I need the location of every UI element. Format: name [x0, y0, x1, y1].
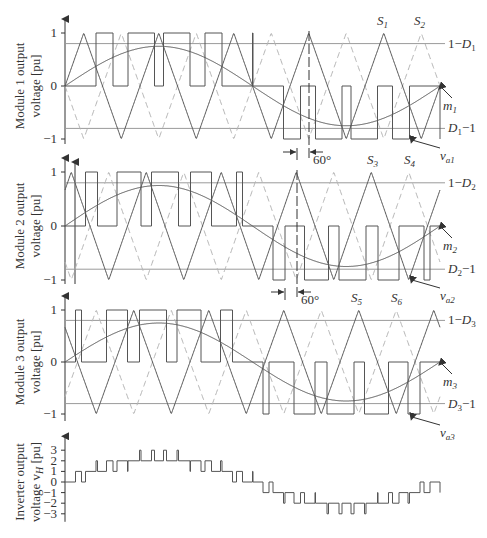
y-tick-label: −1 [43, 131, 57, 146]
lower-reference-label: D3−1 [447, 396, 476, 413]
module-output-voltage [65, 172, 440, 280]
pwm-waveform-figure: 10−11−D1D1−1m1va1S1S260° 10−11−D2D2−1m2v… [0, 0, 487, 538]
y-tick-label: 1 [51, 25, 58, 40]
phase-shift-label: 60° [301, 292, 319, 307]
carrier-label: S3 [367, 152, 379, 169]
modulation-pointer-arrow [441, 227, 452, 238]
svg-text:Inverter output: Inverter output [12, 443, 27, 521]
svg-text:voltage [pu]: voltage [pu] [28, 194, 43, 257]
output-voltage-label: va3 [440, 425, 455, 442]
y-tick-label: −3 [43, 506, 57, 521]
output-pointer-arrow [412, 280, 440, 288]
lower-reference-label: D2−1 [447, 261, 476, 278]
output-pointer-arrow [412, 140, 440, 148]
output-voltage-label: va2 [440, 288, 455, 305]
inverter-output-panel: 3210−1−2−3 [43, 436, 440, 522]
module-output-voltage [65, 310, 440, 414]
phase-arrow-right-icon [290, 149, 296, 155]
carrier-label: S4 [404, 152, 416, 169]
module-2-panel: 10−11−D2D2−1m2va2S3S460° [43, 152, 476, 307]
svg-text:voltage [pu]: voltage [pu] [28, 54, 43, 117]
carrier-label: S1 [377, 13, 388, 30]
module-output-voltage [65, 33, 440, 139]
inverter-output-voltage [65, 450, 440, 514]
upper-reference-label: 1−D3 [448, 312, 476, 329]
svg-text:Module 1 output: Module 1 output [12, 42, 27, 129]
module-1-panel: 10−11−D1D1−1m1va1S1S260° [43, 13, 476, 167]
module-3-panel: 10−11−D3D3−1m3va3S5S6 [43, 290, 476, 442]
carrier-label: S6 [391, 290, 403, 307]
y-tick-label: 0 [51, 218, 58, 233]
svg-text:voltage vH [pu]: voltage vH [pu] [28, 442, 45, 522]
module-1-ylabel: Module 1 output voltage [pu] [12, 42, 43, 129]
y-tick-label: 0 [51, 354, 58, 369]
module-2-ylabel: Module 2 output voltage [pu] [12, 182, 43, 269]
y-tick-label: 1 [51, 164, 58, 179]
modulation-label: m3 [443, 374, 457, 391]
y-tick-label: 1 [51, 302, 58, 317]
modulation-label: m1 [443, 98, 457, 115]
y-tick-label: 0 [51, 78, 58, 93]
upper-reference-label: 1−D2 [448, 175, 476, 192]
svg-text:Module 2 output: Module 2 output [12, 182, 27, 269]
modulation-pointer-arrow [441, 87, 452, 98]
y-tick-label: −1 [43, 406, 57, 421]
y-tick-label: −1 [43, 272, 57, 287]
phase-shift-label: 60° [313, 152, 331, 167]
modulation-label: m2 [443, 238, 457, 255]
module-3-ylabel: Module 3 output voltage [pu] [12, 318, 43, 405]
output-pointer-arrow [412, 417, 440, 425]
carrier-label: S2 [414, 13, 426, 30]
phase-arrow-right-icon [278, 289, 284, 295]
modulation-pointer-arrow [441, 363, 452, 374]
output-voltage-label: va1 [440, 148, 455, 165]
carrier-label: S5 [351, 290, 363, 307]
inverter-ylabel: Inverter output voltage vH [pu] [12, 442, 45, 522]
svg-text:voltage [pu]: voltage [pu] [28, 330, 43, 393]
svg-text:Module 3 output: Module 3 output [12, 318, 27, 405]
upper-reference-label: 1−D1 [448, 36, 476, 53]
lower-reference-label: D1−1 [447, 120, 476, 137]
